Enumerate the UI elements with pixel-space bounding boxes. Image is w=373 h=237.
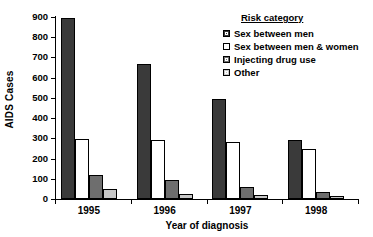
legend-label: Injecting drug use xyxy=(234,54,316,65)
y-tick-label: 100 xyxy=(32,173,48,184)
x-tick-mark xyxy=(55,199,56,204)
legend-swatch-icon xyxy=(223,43,230,50)
bar xyxy=(75,139,89,199)
bar-group xyxy=(137,17,193,199)
bar xyxy=(89,175,103,199)
legend-swatch-icon xyxy=(223,30,230,37)
bar xyxy=(302,149,316,199)
legend-swatch-icon xyxy=(223,56,230,63)
bar xyxy=(103,189,117,199)
x-tick-label: 1995 xyxy=(69,205,109,216)
y-tick-label: 700 xyxy=(32,51,48,62)
bar xyxy=(254,195,268,199)
bar xyxy=(137,64,151,199)
y-tick-label: 200 xyxy=(32,153,48,164)
y-axis-ticks: 0100200300400500600700800900 xyxy=(0,17,55,199)
bar xyxy=(316,192,330,199)
y-tick-label: 600 xyxy=(32,72,48,83)
y-tick-label: 800 xyxy=(32,31,48,42)
legend-item[interactable]: Sex between men & women xyxy=(223,40,371,52)
y-tick-label: 400 xyxy=(32,112,48,123)
y-tick-label: 0 xyxy=(43,193,48,204)
x-tick-label: 1996 xyxy=(145,205,185,216)
bar xyxy=(226,142,240,199)
x-tick-mark xyxy=(282,199,283,204)
legend-label: Other xyxy=(234,67,259,78)
legend-label: Sex between men & women xyxy=(234,41,359,52)
bar xyxy=(330,196,344,199)
x-tick-mark xyxy=(131,199,132,204)
x-tick-label: 1997 xyxy=(220,205,260,216)
legend-item[interactable]: Injecting drug use xyxy=(223,53,371,65)
legend-swatch-icon xyxy=(223,69,230,76)
bar xyxy=(288,140,302,199)
x-tick-mark xyxy=(207,199,208,204)
legend: Risk category Sex between menSex between… xyxy=(223,12,371,79)
y-tick-label: 300 xyxy=(32,132,48,143)
bar xyxy=(240,187,254,199)
x-axis-title: Year of diagnosis xyxy=(55,220,359,231)
y-tick-label: 500 xyxy=(32,92,48,103)
bar-chart: AIDS Cases 0100200300400500600700800900 … xyxy=(0,0,373,237)
bar xyxy=(165,180,179,199)
legend-items: Sex between menSex between men & womenIn… xyxy=(223,27,371,78)
legend-title: Risk category xyxy=(241,12,371,23)
legend-item[interactable]: Sex between men xyxy=(223,27,371,39)
bar xyxy=(61,18,75,199)
bar xyxy=(151,140,165,199)
x-tick-mark xyxy=(358,199,359,204)
bar xyxy=(212,99,226,199)
bar-group xyxy=(61,17,117,199)
bar xyxy=(179,194,193,199)
y-tick-label: 900 xyxy=(32,11,48,22)
legend-item[interactable]: Other xyxy=(223,66,371,78)
x-tick-label: 1998 xyxy=(296,205,336,216)
legend-label: Sex between men xyxy=(234,28,314,39)
